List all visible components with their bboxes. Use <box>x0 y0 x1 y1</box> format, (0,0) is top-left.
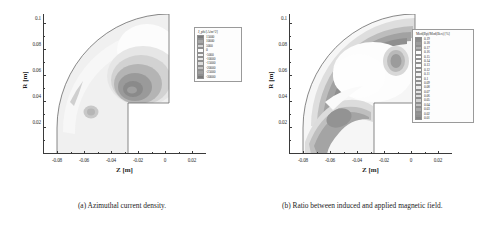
legend-title-b: Mod(Bp)/Mod(Bex) [%] <box>416 32 471 36</box>
y-tick-label-a-5: 0.1 <box>35 15 41 21</box>
x-tick-b-4 <box>384 151 385 154</box>
y-tick-label-b-3: 0.06 <box>279 67 287 73</box>
y-axis-line-b <box>289 14 290 154</box>
x-tick-minor-a-2 <box>98 152 99 154</box>
caption-b: (b) Ratio between induced and applied ma… <box>282 201 458 211</box>
y-tick-a-1 <box>43 127 46 128</box>
contour-domain-a <box>43 14 206 154</box>
x-tick-minor-a-1 <box>71 152 72 154</box>
y-tick-minor-a-3 <box>43 88 45 89</box>
y-tick-b-2 <box>289 101 292 102</box>
x-tick-a-4 <box>138 151 139 154</box>
x-tick-minor-b-1 <box>317 152 318 154</box>
y-tick-minor-b-1 <box>289 140 291 141</box>
x-tick-b-3 <box>357 151 358 154</box>
y-tick-b-4 <box>289 49 292 50</box>
y-tick-label-b-4: 0.08 <box>279 41 287 47</box>
x-axis-title-a: Z [m] <box>116 166 133 174</box>
legend-color-swatch <box>197 75 204 79</box>
x-tick-label-b-1: -0.08 <box>298 157 308 163</box>
x-tick-label-b-2: -0.06 <box>325 157 335 163</box>
legend-color-swatch <box>415 116 422 120</box>
y-tick-minor-a-1 <box>43 140 45 141</box>
x-tick-label-a-6: 0.02 <box>188 157 196 163</box>
y-tick-minor-b-4 <box>289 62 291 63</box>
y-tick-b-5 <box>289 23 292 24</box>
x-tick-a-2 <box>84 151 85 154</box>
y-tick-label-b-1: 0.02 <box>279 119 287 125</box>
contour-plot-a-svg <box>43 14 206 154</box>
y-tick-a-5 <box>43 23 46 24</box>
plot-area-a: -0.08 -0.06 -0.04 -0.02 0 0.02 0.02 0.04… <box>43 14 206 154</box>
x-tick-a-1 <box>57 151 58 154</box>
y-tick-minor-b-2 <box>289 114 291 115</box>
y-tick-label-a-2: 0.04 <box>33 93 41 99</box>
x-tick-label-a-2: -0.06 <box>79 157 89 163</box>
legend-entries-b: 0.190.180.170.160.150.140.130.120.110.10… <box>415 37 471 120</box>
legend-row: 0.01 <box>415 116 471 120</box>
y-tick-b-3 <box>289 75 292 76</box>
x-tick-minor-b-2 <box>344 152 345 154</box>
x-tick-a-5 <box>165 151 166 154</box>
legend-row: -30000 <box>197 75 239 79</box>
x-axis-title-b: Z [m] <box>362 166 379 174</box>
x-tick-label-a-3: -0.04 <box>106 157 116 163</box>
caption-a: (a) Azimuthal current density. <box>32 201 212 211</box>
y-tick-minor-b-5 <box>289 36 291 37</box>
legend-b: Mod(Bp)/Mod(Bex) [%] 0.190.180.170.160.1… <box>412 29 474 123</box>
y-tick-label-b-5: 0.1 <box>281 15 287 21</box>
legend-value-label: 0.01 <box>424 116 430 120</box>
x-tick-label-a-1: -0.08 <box>52 157 62 163</box>
x-tick-b-5 <box>411 151 412 154</box>
x-tick-label-b-3: -0.04 <box>352 157 362 163</box>
y-tick-label-b-2: 0.04 <box>279 93 287 99</box>
figure-container: -0.08 -0.06 -0.04 -0.02 0 0.02 0.02 0.04… <box>0 0 491 239</box>
x-tick-b-6 <box>438 151 439 154</box>
x-tick-label-b-6: 0.02 <box>434 157 442 163</box>
x-tick-b-1 <box>303 151 304 154</box>
y-axis-line-a <box>43 14 44 154</box>
x-tick-label-b-5: 0 <box>410 157 412 163</box>
x-tick-minor-b-4 <box>398 152 399 154</box>
legend-value-label: -30000 <box>206 75 215 79</box>
y-tick-minor-b-3 <box>289 88 291 89</box>
panel-a: -0.08 -0.06 -0.04 -0.02 0 0.02 0.02 0.04… <box>0 0 245 198</box>
y-tick-minor-a-2 <box>43 114 45 115</box>
legend-entries-a: 150001000050000-5000-10000-15000-20000-2… <box>197 35 239 79</box>
x-tick-minor-a-3 <box>125 152 126 154</box>
x-tick-label-a-4: -0.02 <box>133 157 143 163</box>
y-tick-a-3 <box>43 75 46 76</box>
x-tick-a-3 <box>111 151 112 154</box>
x-tick-minor-a-4 <box>152 152 153 154</box>
legend-a: J_phi [A/m^2] 150001000050000-5000-10000… <box>194 27 242 82</box>
x-tick-label-b-4: -0.02 <box>379 157 389 163</box>
y-tick-minor-a-4 <box>43 62 45 63</box>
x-tick-b-2 <box>330 151 331 154</box>
y-tick-label-a-1: 0.02 <box>33 119 41 125</box>
y-axis-title-b: R [m] <box>267 60 275 100</box>
panel-b: -0.08 -0.06 -0.04 -0.02 0 0.02 0.02 0.04… <box>246 0 491 198</box>
x-tick-a-6 <box>192 151 193 154</box>
y-tick-b-1 <box>289 127 292 128</box>
y-tick-label-a-3: 0.06 <box>33 67 41 73</box>
y-tick-a-2 <box>43 101 46 102</box>
x-tick-label-a-5: 0 <box>164 157 166 163</box>
x-tick-minor-b-5 <box>425 152 426 154</box>
x-tick-minor-b-3 <box>371 152 372 154</box>
y-tick-label-a-4: 0.08 <box>33 41 41 47</box>
legend-title-a: J_phi [A/m^2] <box>198 30 239 34</box>
y-tick-minor-a-5 <box>43 36 45 37</box>
y-axis-title-a: R [m] <box>21 60 29 100</box>
x-tick-minor-a-5 <box>179 152 180 154</box>
y-tick-a-4 <box>43 49 46 50</box>
